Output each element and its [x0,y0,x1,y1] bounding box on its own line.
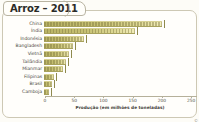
bar [44,89,49,95]
bar-category-label: Vietnã [0,51,44,57]
bar-end-tick [75,42,76,50]
credit-mark: © [194,118,198,122]
bar-end-tick [137,27,138,35]
bar-category-label: Tailândia [0,59,44,65]
bar-track [44,21,199,27]
bar-category-label: Bangladesh [0,43,44,49]
bar-track [44,81,199,87]
bar [44,36,84,42]
bar-row: Filipinas [0,73,199,80]
bar-track [44,36,199,42]
bar-end-tick [65,65,66,73]
bar-track [44,59,199,65]
bar-category-label: Brasil [0,81,44,87]
bar-row: China [0,20,199,27]
chart-title-box: Arroz – 2011 [3,1,86,16]
bar-category-label: China [0,21,44,27]
bar [44,81,52,87]
x-tick-label: 0 [44,98,47,103]
bar-row: Vietnã [0,50,199,57]
bar-end-tick [164,20,165,28]
x-tick-label: 50 [71,98,77,103]
bar-category-label: Mianmar [0,66,44,72]
bar-track [44,66,199,72]
bar-track [44,89,199,95]
bar [44,43,73,49]
bar-end-tick [68,58,69,66]
bar-end-tick [56,73,57,81]
bar [44,66,63,72]
bar-end-tick [51,88,52,96]
bar-row: Índia [0,28,199,35]
x-tick-label: 200 [158,98,166,103]
x-tick-label: 150 [128,98,136,103]
x-axis-line [45,96,197,97]
bar-track [44,51,199,57]
bar-end-tick [54,80,55,88]
bar-row: Camboja [0,88,199,95]
bar-category-label: Camboja [0,89,44,95]
bar [44,59,66,65]
page-title: Arroz – 2011 [10,3,78,14]
bar-end-tick [71,50,72,58]
bar [44,51,69,57]
bar-end-tick [86,35,87,43]
bar-row: Bangladesh [0,43,199,50]
plot-area: ChinaÍndiaIndonésiaBangladeshVietnãTailâ… [0,12,199,122]
bar-category-label: Filipinas [0,74,44,80]
bar [44,74,54,80]
bar-row: Indonésia [0,35,199,42]
rice-production-chart: Arroz – 2011 ChinaÍndiaIndonésiaBanglade… [0,0,199,122]
bar-rows: ChinaÍndiaIndonésiaBangladeshVietnãTailâ… [0,20,199,96]
bar-track [44,28,199,34]
bar-category-label: Indonésia [0,36,44,42]
bar [44,21,162,27]
bar-row: Brasil [0,81,199,88]
bar-row: Mianmar [0,66,199,73]
bar [44,28,135,34]
bar-track [44,43,199,49]
x-tick-label: 250 [187,98,195,103]
x-axis-caption: Produção (em milhões de toneladas) [45,105,195,110]
x-tick-label: 100 [99,98,107,103]
bar-category-label: Índia [0,28,44,34]
bar-row: Tailândia [0,58,199,65]
bar-track [44,74,199,80]
